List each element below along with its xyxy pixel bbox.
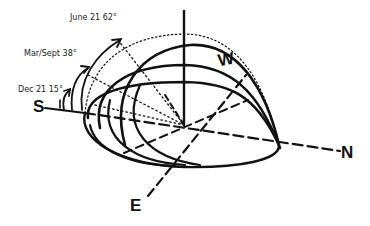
- direction-west: W: [216, 49, 235, 71]
- direction-south: S: [33, 97, 44, 117]
- inner-arc-1: [90, 125, 175, 166]
- axis-diag: [165, 95, 184, 125]
- sun-path-diagram: [0, 0, 370, 226]
- south-leg: [45, 108, 85, 113]
- label-equinox: Mar/Sept 38°: [24, 49, 77, 58]
- label-june: June 21 62°: [70, 13, 117, 22]
- arrow-equinox: [72, 68, 88, 110]
- direction-east: E: [130, 196, 141, 216]
- label-december: Dec 21 15°: [18, 85, 63, 94]
- direction-north: N: [341, 143, 353, 163]
- axis-ne-sw: [124, 100, 248, 153]
